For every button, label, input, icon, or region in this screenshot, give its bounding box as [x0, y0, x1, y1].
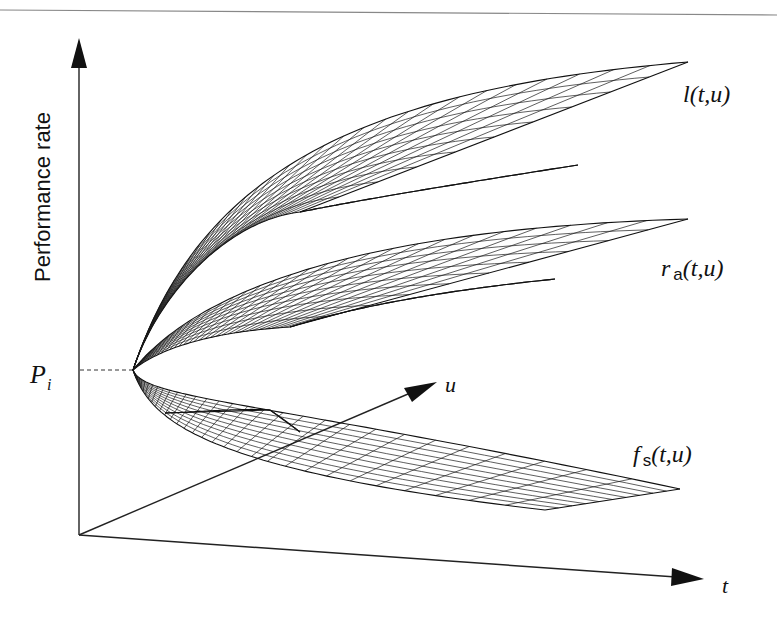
t-axis — [79, 535, 704, 586]
surface-label-ra: ra(t,u) — [661, 255, 723, 284]
diagram-canvas: Performance rate Pi u t l(t,u) ra(t,u) f… — [0, 0, 777, 619]
surface-label-fs: fs(t,u) — [633, 441, 692, 470]
u-axis-label: u — [445, 372, 456, 397]
t-axis-label: t — [722, 573, 729, 598]
header-rule — [0, 10, 777, 15]
y-axis-arrow-icon — [71, 38, 87, 68]
y-axis-label: Performance rate — [30, 112, 55, 282]
y-axis — [71, 38, 87, 535]
pi-label: Pi — [29, 360, 51, 393]
t-axis-arrow-icon — [671, 568, 704, 586]
surface-label-l: l(t,u) — [683, 81, 730, 107]
u-axis-arrow-icon — [404, 382, 437, 402]
